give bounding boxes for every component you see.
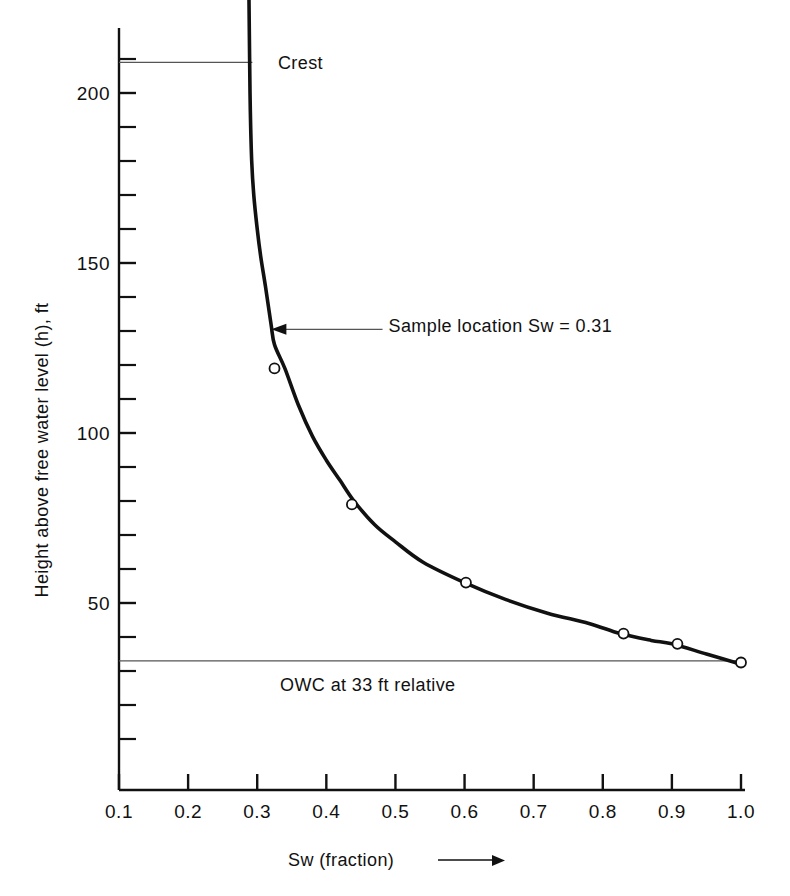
x-tick-label: 0.9 — [658, 801, 686, 822]
data-point-marker — [347, 499, 357, 509]
y-tick-label: 200 — [77, 83, 110, 104]
owc-label: OWC at 33 ft relative — [280, 675, 455, 695]
sample-location-annotation: Sample location Sw = 0.31 — [271, 316, 612, 336]
x-tick-label: 0.7 — [520, 801, 548, 822]
chart-canvas: 50100150200 0.10.20.30.40.50.60.70.80.91… — [0, 0, 790, 896]
y-tick-label: 150 — [77, 253, 110, 274]
sample-location-label: Sample location Sw = 0.31 — [389, 316, 613, 336]
y-axis-tick-labels: 50100150200 — [77, 83, 110, 614]
x-axis-title: Sw (fraction) — [288, 850, 394, 870]
x-tick-label: 0.2 — [174, 801, 202, 822]
x-tick-label: 0.8 — [589, 801, 617, 822]
x-tick-label: 0.5 — [381, 801, 409, 822]
x-tick-label: 0.4 — [312, 801, 340, 822]
capillary-pressure-chart: 50100150200 0.10.20.30.40.50.60.70.80.91… — [0, 0, 790, 896]
data-point-marker — [672, 639, 682, 649]
crest-annotation: Crest — [119, 53, 323, 73]
data-point-marker — [270, 363, 280, 373]
x-tick-label: 0.6 — [451, 801, 479, 822]
x-axis-title-group: Sw (fraction) — [288, 850, 505, 870]
x-axis-ticks — [119, 774, 741, 790]
data-point-marker — [736, 658, 746, 668]
owc-annotation: OWC at 33 ft relative — [119, 661, 741, 696]
data-point-markers — [270, 363, 747, 667]
x-tick-label: 0.3 — [243, 801, 271, 822]
x-axis-tick-labels: 0.10.20.30.40.50.60.70.80.91.0 — [105, 801, 755, 822]
x-tick-label: 1.0 — [727, 801, 755, 822]
y-axis-major-ticks — [119, 93, 136, 603]
y-axis-title: Height above free water level (h), ft — [32, 303, 52, 598]
y-tick-label: 100 — [77, 423, 110, 444]
crest-label: Crest — [278, 53, 323, 73]
y-axis-minor-ticks — [119, 59, 136, 739]
x-tick-label: 0.1 — [105, 801, 133, 822]
y-tick-label: 50 — [88, 593, 110, 614]
data-point-marker — [461, 578, 471, 588]
data-point-marker — [619, 629, 629, 639]
x-axis-title-arrow-head — [492, 855, 505, 866]
